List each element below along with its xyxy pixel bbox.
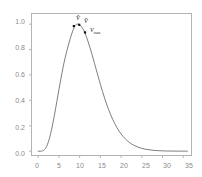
annotation-v-hat-text: V̂ [76,15,80,21]
marker-v-bar [78,24,80,26]
annotation-v-max-subscript: max [94,30,101,35]
annotation-v-bar-text: V̄ [84,18,88,24]
annotation-v-bar: V̄ [84,18,88,24]
plot-area [0,0,202,177]
chart-figure: 1.0 0.8 0.6 0.4 0.2 0.0 0 5 10 15 20 25 … [0,0,202,177]
marker-v-hat [73,25,75,27]
annotation-v-max: Vmax [90,27,100,35]
marker-v-max [84,31,86,33]
annotation-v-hat: V̂ [76,15,80,21]
plot-frame [32,14,192,156]
